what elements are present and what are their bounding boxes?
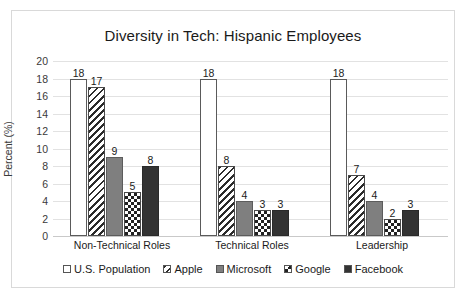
bar-google: 3 bbox=[254, 210, 271, 236]
bar-facebook: 8 bbox=[142, 166, 159, 236]
legend-label: Facebook bbox=[355, 263, 403, 275]
legend-swatch-us-population bbox=[63, 265, 71, 273]
bar-us-population: 18 bbox=[70, 79, 87, 237]
legend-swatch-facebook bbox=[344, 265, 352, 273]
chart-title: Diversity in Tech: Hispanic Employees bbox=[12, 27, 454, 44]
bar-group: 188433 bbox=[200, 61, 312, 236]
bar-value-label: 7 bbox=[354, 163, 360, 175]
legend-label: Microsoft bbox=[227, 263, 272, 275]
bar-value-label: 5 bbox=[130, 180, 136, 192]
bar-google: 5 bbox=[124, 192, 141, 236]
y-axis-tick-label: 16 bbox=[36, 90, 48, 102]
y-axis-tick-label: 2 bbox=[42, 213, 48, 225]
y-axis-tick-label: 0 bbox=[42, 230, 48, 242]
bar-value-label: 3 bbox=[408, 198, 414, 210]
bar-microsoft: 4 bbox=[236, 201, 253, 236]
bar-group: 187423 bbox=[330, 61, 442, 236]
bar-value-label: 3 bbox=[278, 198, 284, 210]
legend-label: Google bbox=[295, 263, 330, 275]
y-axis-tick-label: 10 bbox=[36, 143, 48, 155]
y-axis-tick-label: 8 bbox=[42, 160, 48, 172]
gridline bbox=[53, 236, 448, 237]
legend-item-us-population[interactable]: U.S. Population bbox=[63, 263, 150, 275]
bar-facebook: 3 bbox=[272, 210, 289, 236]
bar-value-label: 8 bbox=[224, 154, 230, 166]
legend-swatch-apple bbox=[163, 265, 171, 273]
bar-us-population: 18 bbox=[200, 79, 217, 237]
plot-area: 02468101214161820 1817958188433187423 bbox=[53, 61, 448, 236]
legend-item-microsoft[interactable]: Microsoft bbox=[216, 263, 272, 275]
bar-value-label: 2 bbox=[390, 207, 396, 219]
x-axis-category-label: Technical Roles bbox=[215, 239, 289, 251]
legend-swatch-microsoft bbox=[216, 265, 224, 273]
bar-value-label: 8 bbox=[148, 154, 154, 166]
bar-value-label: 18 bbox=[73, 67, 85, 79]
y-axis-tick-label: 6 bbox=[42, 178, 48, 190]
bar-microsoft: 9 bbox=[106, 157, 123, 236]
bar-apple: 8 bbox=[218, 166, 235, 236]
bar-value-label: 3 bbox=[260, 198, 266, 210]
bar-value-label: 18 bbox=[203, 67, 215, 79]
y-axis-tick-label: 14 bbox=[36, 108, 48, 120]
bar-apple: 17 bbox=[88, 87, 105, 236]
x-axis-category-label: Non-Technical Roles bbox=[74, 239, 170, 251]
y-axis-tick-label: 12 bbox=[36, 125, 48, 137]
y-axis-tick-label: 20 bbox=[36, 55, 48, 67]
y-axis-title: Percent (%) bbox=[2, 121, 14, 176]
legend-label: Apple bbox=[174, 263, 202, 275]
bar-group: 1817958 bbox=[70, 61, 182, 236]
y-axis-tick-label: 4 bbox=[42, 195, 48, 207]
y-axis-tick-label: 18 bbox=[36, 73, 48, 85]
x-axis-category-label: Leadership bbox=[356, 239, 408, 251]
legend-label: U.S. Population bbox=[74, 263, 150, 275]
bar-value-label: 17 bbox=[91, 75, 103, 87]
legend-item-apple[interactable]: Apple bbox=[163, 263, 202, 275]
bar-value-label: 18 bbox=[333, 67, 345, 79]
chart-legend: U.S. PopulationAppleMicrosoftGoogleFaceb… bbox=[12, 263, 454, 275]
bar-value-label: 4 bbox=[242, 189, 248, 201]
bar-value-label: 4 bbox=[372, 189, 378, 201]
legend-item-facebook[interactable]: Facebook bbox=[344, 263, 403, 275]
legend-swatch-google bbox=[284, 265, 292, 273]
bar-microsoft: 4 bbox=[366, 201, 383, 236]
bar-facebook: 3 bbox=[402, 210, 419, 236]
legend-item-google[interactable]: Google bbox=[284, 263, 330, 275]
chart-container: Diversity in Tech: Hispanic Employees Pe… bbox=[11, 10, 455, 288]
bar-us-population: 18 bbox=[330, 79, 347, 237]
bar-value-label: 9 bbox=[112, 145, 118, 157]
bar-apple: 7 bbox=[348, 175, 365, 236]
bar-google: 2 bbox=[384, 219, 401, 237]
